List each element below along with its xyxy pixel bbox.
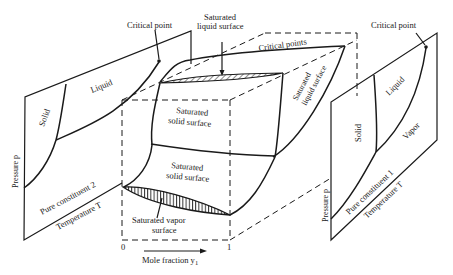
- x-axis-tick-0: 0: [121, 242, 125, 252]
- vapor-right-curve: [230, 157, 275, 215]
- box-bottom-right-depth-edge: [230, 178, 331, 240]
- front-right-curve: [275, 73, 283, 157]
- right-liquid-label: Liquid: [383, 74, 407, 98]
- right-critical-point-label: Critical point: [371, 20, 417, 30]
- phase-diagram-figure: Critical point Liquid Solid Pressure p P…: [0, 0, 453, 275]
- left-critical-point-dot: [157, 59, 161, 63]
- x-axis-label-subscript: 1: [195, 259, 198, 266]
- left-sublimation-curve: [24, 140, 56, 188]
- left-vaporization-curve: [56, 62, 159, 140]
- right-critical-point-dot: [424, 45, 428, 49]
- left-pressure-axis-label: Pressure p: [11, 155, 20, 188]
- right-solid-label: Solid: [353, 123, 363, 142]
- critical-points-label: Critical points: [258, 36, 307, 53]
- left-solid-label: Solid: [36, 107, 52, 128]
- sat-vapor-label-line1: Saturated vapor: [132, 215, 186, 225]
- saturated-vapor-hatch: [123, 187, 230, 215]
- x-axis-label: Mole fraction y1: [142, 255, 198, 266]
- x-axis-label-text: Mole fraction y: [142, 255, 196, 265]
- left-liquid-label: Liquid: [89, 77, 114, 95]
- right-solid-liquid-curve: [374, 75, 377, 152]
- mole-fraction-arrowhead: [200, 249, 207, 254]
- x-axis-tick-1: 1: [227, 242, 231, 252]
- right-pressure-axis-label: Pressure p: [321, 189, 330, 222]
- left-solid-liquid-curve: [56, 84, 66, 140]
- left-critical-point-label: Critical point: [127, 20, 173, 30]
- solid-surface-divider-curve: [151, 144, 275, 156]
- sat-solid-lower-label-line2: solid surface: [166, 170, 210, 184]
- right-vaporization-curve: [376, 48, 426, 152]
- sat-vapor-label-line2: surface: [152, 225, 177, 235]
- right-vapor-label: Vapor: [400, 120, 422, 142]
- box-top-left-depth-edge: [122, 33, 265, 100]
- sat-liquid-top-label-line2: liquid surface: [197, 21, 244, 31]
